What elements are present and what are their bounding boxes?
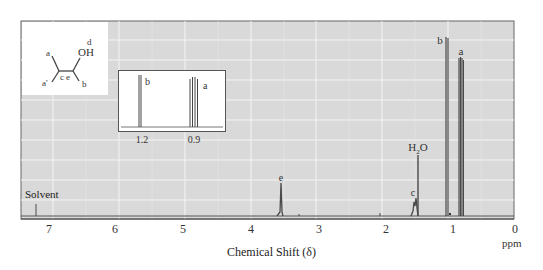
inset-expansion: b a	[118, 70, 226, 132]
x-tick-1: 1	[450, 222, 456, 237]
x-tick-3: 3	[316, 222, 322, 237]
x-axis-title: Chemical Shift (δ)	[0, 245, 543, 260]
peak-label-b: b	[437, 35, 443, 46]
molecule-structure	[22, 22, 108, 95]
x-tick-6: 6	[112, 222, 118, 237]
inset-tick-0-9: 0.9	[188, 134, 201, 145]
inset-tick-1-2: 1.2	[136, 134, 149, 145]
peak-label-e: e	[279, 173, 283, 183]
struct-label-oh: OH	[78, 47, 94, 58]
struct-label-e: e	[66, 73, 70, 82]
structure-box: a a' c e b OH d	[22, 22, 108, 95]
struct-label-d: d	[87, 38, 92, 47]
struct-label-a: a	[46, 49, 50, 58]
x-tick-0: 0	[512, 222, 518, 237]
inset-label-b: b	[145, 77, 150, 87]
x-tick-5: 5	[180, 222, 186, 237]
peak-label-a: a	[459, 46, 464, 57]
inset-label-a: a	[203, 81, 207, 91]
x-tick-7: 7	[46, 222, 52, 237]
struct-label-c: c	[60, 73, 64, 82]
struct-label-a-prime: a'	[42, 79, 48, 88]
x-tick-2: 2	[383, 222, 389, 237]
peak-label-h2o: H2O	[408, 142, 427, 156]
solvent-label: Solvent	[25, 188, 59, 200]
struct-label-b: b	[82, 80, 87, 89]
x-tick-4: 4	[248, 222, 254, 237]
peak-label-c: c	[411, 188, 415, 198]
inset-trace	[119, 71, 225, 131]
